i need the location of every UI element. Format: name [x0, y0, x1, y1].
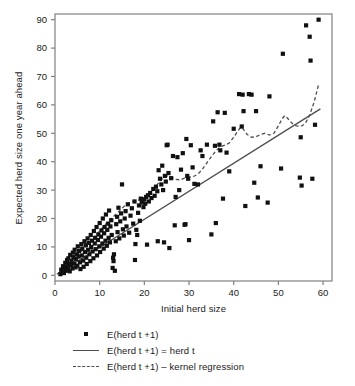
svg-text:70: 70 [36, 71, 47, 82]
square-marker-icon [84, 332, 88, 336]
plot-svg: 0102030405060708090 0102030405060 [0, 0, 355, 330]
svg-text:30: 30 [36, 185, 47, 196]
legend-label-kernel: E(herd t +1) – kernel regression [107, 361, 244, 372]
svg-text:20: 20 [36, 213, 47, 224]
svg-text:90: 90 [36, 14, 47, 25]
legend-label-points: E(herd t +1) [107, 329, 159, 340]
dashed-line-icon [73, 366, 99, 367]
svg-text:80: 80 [36, 42, 47, 53]
legend-item-points: E(herd t +1) [0, 326, 355, 342]
svg-text:0: 0 [42, 270, 47, 281]
chart-figure: 0102030405060708090 0102030405060 Expect… [0, 0, 355, 386]
svg-text:40: 40 [228, 287, 239, 298]
svg-text:50: 50 [273, 287, 284, 298]
legend-label-identity: E(herd t +1) = herd t [107, 345, 195, 356]
x-axis-title: Initial herd size [55, 303, 332, 314]
svg-text:40: 40 [36, 156, 47, 167]
legend-key-dashed-line [65, 358, 107, 374]
svg-text:30: 30 [184, 287, 195, 298]
svg-text:0: 0 [52, 287, 57, 298]
chart-legend: E(herd t +1) E(herd t +1) = herd t E(her… [0, 326, 355, 374]
svg-text:10: 10 [36, 241, 47, 252]
svg-text:10: 10 [94, 287, 105, 298]
scatter-plot-canvas: 0102030405060708090 0102030405060 [0, 0, 355, 330]
svg-text:50: 50 [36, 128, 47, 139]
solid-line-icon [73, 350, 99, 351]
legend-key-solid-line [65, 342, 107, 358]
legend-item-kernel: E(herd t +1) – kernel regression [0, 358, 355, 374]
data-point-markers [58, 18, 320, 277]
x-axis-ticks: 0102030405060 [52, 281, 328, 298]
svg-text:60: 60 [36, 99, 47, 110]
y-axis-title: Expected herd size one year ahead [13, 13, 24, 283]
svg-text:20: 20 [139, 287, 150, 298]
legend-item-identity: E(herd t +1) = herd t [0, 342, 355, 358]
y-axis-ticks: 0102030405060708090 [36, 14, 55, 281]
legend-key-square [65, 326, 107, 342]
svg-text:60: 60 [318, 287, 329, 298]
